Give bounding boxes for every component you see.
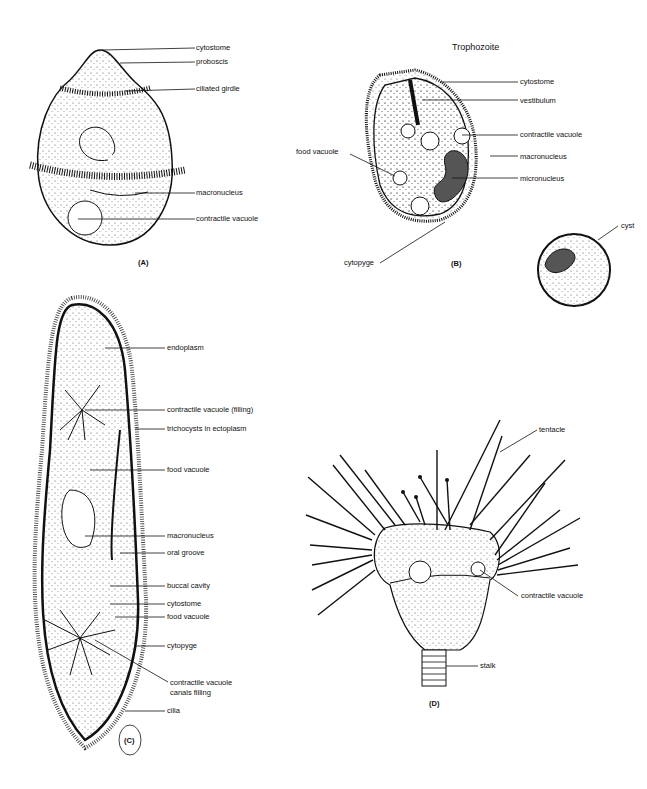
panel-d-organism (306, 420, 580, 686)
label-a-contractile-vacuole: contractile vacuole (196, 215, 258, 223)
label-a-ciliated-girdle: ciliated girdle (196, 85, 240, 93)
label-c-endoplasm: endoplasm (167, 344, 204, 352)
protozoa-diagram (0, 0, 647, 789)
label-b-vestibulum: vestibulum (520, 97, 556, 105)
panel-c-organism (35, 297, 168, 755)
label-c-oral-groove: oral groove (167, 549, 205, 557)
label-a-macronucleus: macronucleus (196, 189, 243, 197)
label-c-contractile-vacuole: contractile vacuole (170, 679, 232, 687)
label-c-contractile-vacuole-filling: contractile vacuole (filling) (167, 406, 253, 414)
caption-b: (B) (451, 259, 461, 268)
label-c-macronucleus: macronucleus (167, 532, 214, 540)
label-b-cytostome: cytostome (520, 78, 554, 86)
label-c-cytostome: cytostome (167, 600, 201, 608)
label-c-food-vacuole-2: food vacuole (167, 613, 210, 621)
label-c-trichocysts: trichocysts in ectoplasm (167, 425, 247, 433)
label-d-tentacle: tentacle (539, 426, 565, 434)
caption-c: (C) (124, 736, 134, 745)
panel-a-organism (30, 48, 195, 245)
label-b-macronucleus: macronucleus (520, 153, 567, 161)
label-c-food-vacuole-1: food vacuole (167, 466, 210, 474)
label-d-contractile-vacuole: contractile vacuole (521, 592, 583, 600)
label-d-stalk: stalk (480, 662, 495, 670)
label-b-food-vacuole: food vacuole (296, 148, 339, 156)
label-c-cilia: cilia (167, 707, 180, 715)
caption-d: (D) (429, 699, 439, 708)
label-b-contractile-vacuole: contractile vacuole (520, 131, 582, 139)
label-a-cytostome: cytostome (196, 44, 230, 52)
label-b-cyst: cyst (621, 222, 634, 230)
label-c-canals-filling: canals filling (170, 689, 211, 697)
title-trophozoite: Trophozoite (452, 42, 499, 52)
label-c-cytopyge: cytopyge (167, 642, 197, 650)
caption-a: (A) (138, 258, 148, 267)
label-b-cytopyge: cytopyge (344, 259, 374, 267)
label-a-proboscis: proboscis (196, 58, 228, 66)
panel-b-organism (350, 70, 618, 306)
label-b-micronucleus: micronucleus (520, 175, 564, 183)
label-c-buccal-cavity: buccal cavity (167, 582, 210, 590)
